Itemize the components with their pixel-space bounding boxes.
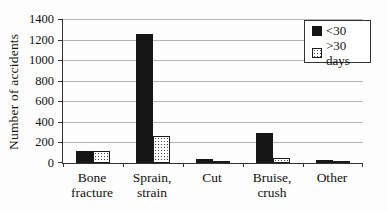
bar-<30-Cut [196, 159, 213, 163]
gridline [63, 122, 363, 123]
bar-<30-Bruise, crush [256, 133, 273, 163]
y-tick-label: 0 [14, 156, 54, 170]
legend: <30 >30 days [304, 20, 371, 63]
bar->30 days-Other [333, 161, 350, 163]
x-axis-tick [303, 163, 304, 167]
x-axis-tick [123, 163, 124, 167]
x-category-label: Bruise, crush [242, 170, 302, 200]
y-tick-label: 400 [14, 115, 54, 129]
legend-item-under-30: <30 [312, 23, 370, 38]
y-tick-label: 1400 [14, 12, 54, 26]
x-axis-tick [183, 163, 184, 167]
y-axis-tick [58, 60, 63, 61]
y-axis-tick [58, 142, 63, 143]
y-tick-label: 200 [14, 135, 54, 149]
y-axis-tick [58, 101, 63, 102]
gridline [63, 101, 363, 102]
y-tick-label: 600 [14, 94, 54, 108]
gridline [63, 81, 363, 82]
y-axis-tick [58, 81, 63, 82]
y-axis-tick [58, 19, 63, 20]
y-tick-label: 1000 [14, 53, 54, 67]
x-axis-tick [63, 163, 64, 167]
x-axis-labels: Bone fractureSprain, strainCutBruise, cr… [62, 170, 362, 206]
legend-label-over-30-days: >30 days [326, 38, 370, 68]
y-tick-label: 1200 [14, 33, 54, 47]
y-axis-tick-labels: 0200400600800100012001400 [0, 19, 56, 163]
x-axis-tick [243, 163, 244, 167]
bar-<30-Sprain, strain [136, 34, 153, 163]
bar-<30-Bone fracture [76, 151, 93, 163]
legend-swatch-over-30-days-icon [312, 48, 322, 58]
x-axis-tick [362, 163, 363, 167]
legend-label-under-30: <30 [326, 23, 346, 38]
bar->30 days-Cut [213, 161, 230, 163]
y-axis-tick [58, 40, 63, 41]
x-category-label: Cut [182, 170, 242, 185]
x-category-label: Bone fracture [62, 170, 122, 200]
bar-chart: Number of accidents 02004006008001000120… [0, 0, 387, 213]
y-tick-label: 800 [14, 74, 54, 88]
legend-item-over-30-days: >30 days [312, 38, 370, 68]
bar->30 days-Sprain, strain [153, 136, 170, 163]
bar-<30-Other [316, 160, 333, 163]
gridline [63, 142, 363, 143]
x-category-label: Sprain, strain [122, 170, 182, 200]
x-category-label: Other [302, 170, 362, 185]
bar->30 days-Bone fracture [93, 151, 110, 163]
y-axis-tick [58, 122, 63, 123]
bar->30 days-Bruise, crush [273, 158, 290, 163]
legend-swatch-under-30-icon [312, 26, 322, 36]
